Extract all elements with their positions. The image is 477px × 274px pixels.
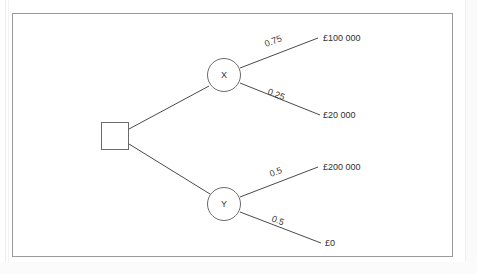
- payoff-label-y-lower: £0: [325, 238, 335, 248]
- probability-label-y-upper: 0.5: [268, 165, 283, 179]
- figure-page: X Y 0.75 0.25 0.5 0.5 £100 000 £20 000 £…: [0, 0, 477, 274]
- probability-label-x-upper: 0.75: [263, 33, 283, 49]
- chance-node-y-label: Y: [221, 199, 227, 209]
- chance-node-x-label: X: [221, 70, 227, 80]
- decision-tree-svg: X Y 0.75 0.25 0.5 0.5 £100 000 £20 000 £…: [0, 0, 477, 274]
- payoff-label-y-upper: £200 000: [323, 162, 361, 172]
- payoff-label-x-lower: £20 000: [323, 110, 356, 120]
- payoff-label-x-upper: £100 000: [323, 33, 361, 43]
- decision-node-square[interactable]: [102, 123, 129, 150]
- edge-root-to-y: [129, 144, 210, 194]
- probability-label-x-lower: 0.25: [266, 87, 286, 103]
- edge-root-to-x: [129, 86, 209, 129]
- probability-label-y-lower: 0.5: [270, 214, 285, 228]
